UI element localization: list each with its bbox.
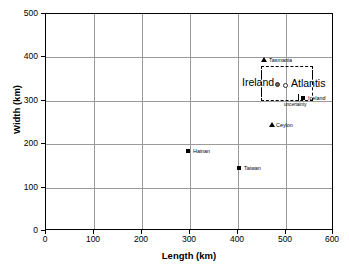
data-point-iceland xyxy=(301,96,305,100)
x-tick-label: 0 xyxy=(25,234,65,244)
data-point-hainan xyxy=(186,149,190,153)
plot-area: uncertainty Tasmania Ireland Atlantis Ic… xyxy=(45,13,333,230)
y-tick xyxy=(41,56,45,57)
y-tick-label: 500 xyxy=(0,8,38,18)
data-label-tasmania: Tasmania xyxy=(269,57,292,63)
gridline-vertical xyxy=(238,14,239,229)
gridline-vertical xyxy=(94,14,95,229)
y-tick xyxy=(41,143,45,144)
error-bar xyxy=(312,70,313,77)
y-tick xyxy=(41,13,45,14)
x-tick-label: 500 xyxy=(265,234,305,244)
x-axis-title: Length (km) xyxy=(45,250,333,261)
error-bar xyxy=(261,90,262,97)
gridline-vertical xyxy=(190,14,191,229)
data-label-ireland: Ireland xyxy=(242,79,274,85)
x-tick-label: 100 xyxy=(73,234,113,244)
x-tick-label: 300 xyxy=(169,234,209,244)
y-tick-label: 100 xyxy=(0,182,38,192)
y-tick-label: 0 xyxy=(0,225,38,235)
data-label-taiwan: Taiwan xyxy=(244,165,261,171)
x-tick-label: 600 xyxy=(312,234,349,244)
y-tick-label: 400 xyxy=(0,51,38,61)
x-tick-label: 400 xyxy=(217,234,257,244)
figure-caption xyxy=(0,266,349,277)
y-axis-title: Width (km) xyxy=(11,70,22,150)
data-point-ceylon xyxy=(269,122,275,127)
scatter-chart-figure: uncertainty Tasmania Ireland Atlantis Ic… xyxy=(0,0,349,277)
gridline-vertical xyxy=(142,14,143,229)
data-label-atlantis: Atlantis xyxy=(291,80,325,86)
y-tick xyxy=(41,230,45,231)
gridline-horizontal xyxy=(46,144,332,145)
error-bar xyxy=(298,94,299,101)
data-point-taiwan xyxy=(237,166,241,170)
data-label-ceylon: Ceylon xyxy=(276,122,293,128)
uncertainty-label: uncertainty xyxy=(284,102,306,107)
y-tick xyxy=(41,100,45,101)
x-tick-label: 200 xyxy=(121,234,161,244)
gridline-horizontal xyxy=(46,188,332,189)
data-label-iceland: Iceland xyxy=(308,95,325,101)
data-label-hainan: Hainan xyxy=(193,148,210,154)
data-point-tasmania xyxy=(261,57,267,62)
data-point-ireland xyxy=(275,82,280,87)
y-tick xyxy=(41,187,45,188)
